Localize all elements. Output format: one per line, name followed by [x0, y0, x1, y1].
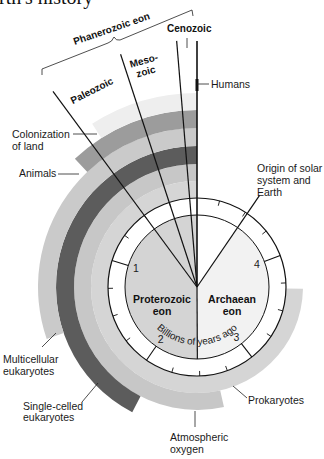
label-archaean-2: eon — [223, 305, 242, 317]
label-origin-3: Earth — [257, 186, 282, 198]
label-multicellular-2: eukaryotes — [3, 365, 54, 377]
label-animals: Animals — [19, 167, 56, 179]
label-origin-1: Origin of solar — [257, 162, 323, 174]
label-colonization-1: Colonization — [12, 128, 70, 140]
label-humans: Humans — [211, 78, 250, 90]
label-prokaryotes: Prokaryotes — [248, 394, 304, 406]
label-single-celled-2: eukaryotes — [23, 411, 74, 423]
label-colonization-2: of land — [12, 140, 44, 152]
prokaryotes-leader — [233, 386, 247, 398]
label-oxygen-2: oxygen — [170, 443, 204, 455]
label-paleozoic: Paleozoic — [69, 75, 115, 106]
tick-label-1: 1 — [133, 262, 139, 274]
figure-title: Earth's history — [0, 0, 93, 9]
tick-label-4: 4 — [254, 258, 260, 270]
label-proterozoic-1: Proterozoic — [133, 293, 191, 305]
label-multicellular-1: Multicellular — [3, 353, 59, 365]
label-origin-2: system and — [257, 174, 311, 186]
single-celled-leader — [82, 383, 98, 402]
label-oxygen-1: Atmospheric — [170, 431, 228, 443]
label-cenozoic: Cenozoic — [167, 23, 212, 34]
label-archaean-1: Archaean — [208, 293, 256, 305]
label-proterozoic-2: eon — [153, 305, 172, 317]
clock-diagram: Earth's history 1234 Humans Phanerozoic … — [0, 0, 324, 459]
